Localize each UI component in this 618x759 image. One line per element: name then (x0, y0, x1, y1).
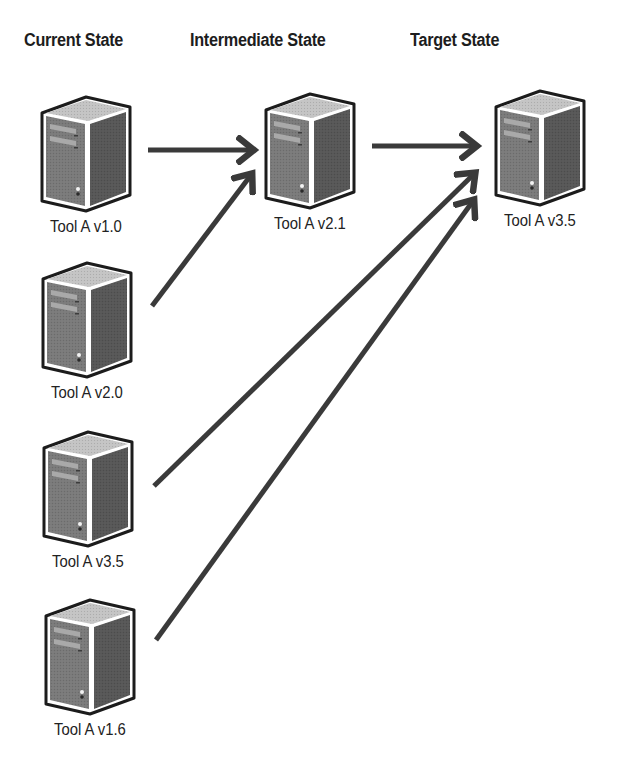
server-tower-icon (40, 428, 136, 550)
node-current-2: Tool A v2.0 (37, 259, 137, 402)
server-tower-icon (42, 596, 138, 718)
node-intermediate: Tool A v2.1 (260, 90, 360, 233)
node-label: Tool A v3.5 (52, 552, 124, 571)
node-label: Tool A v2.0 (51, 383, 123, 402)
node-current-4: Tool A v1.6 (40, 596, 140, 739)
node-label: Tool A v1.6 (54, 720, 126, 739)
header-target-state: Target State (410, 30, 499, 51)
node-target: Tool A v3.5 (490, 87, 590, 230)
node-label: Tool A v1.0 (50, 217, 122, 236)
server-tower-icon (262, 90, 358, 212)
server-tower-icon (38, 93, 134, 215)
header-intermediate-state: Intermediate State (190, 30, 326, 51)
arrow-v1.6-to-target (156, 201, 473, 640)
node-current-3: Tool A v3.5 (38, 428, 138, 571)
arrow-v2.0-to-v2.1 (152, 175, 251, 306)
header-current-state: Current State (24, 30, 123, 51)
server-tower-icon (492, 87, 588, 209)
node-current-1: Tool A v1.0 (36, 93, 136, 236)
server-tower-icon (39, 259, 135, 381)
node-label: Tool A v3.5 (504, 211, 576, 230)
node-label: Tool A v2.1 (274, 214, 346, 233)
